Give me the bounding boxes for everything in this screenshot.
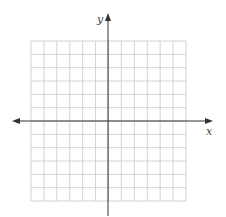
x-axis-left-arrow-icon <box>12 118 20 124</box>
y-axis-label: y <box>96 13 104 26</box>
y-axis-up-arrow-icon <box>105 13 111 21</box>
coordinate-plane: x y <box>0 0 226 217</box>
x-axis-right-arrow-icon <box>205 118 213 124</box>
axes <box>12 13 213 216</box>
x-axis-label: x <box>206 125 213 138</box>
